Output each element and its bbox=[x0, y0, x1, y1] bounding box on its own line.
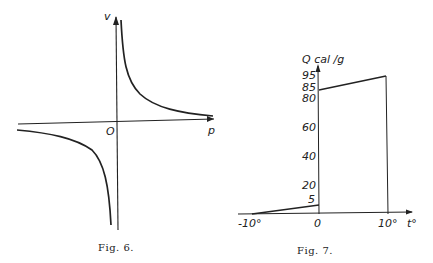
fig6-origin-label: O bbox=[106, 125, 115, 138]
fig7-segment-ice bbox=[252, 205, 319, 214]
fig7-ytick-40: 40 bbox=[302, 150, 316, 163]
fig6-v-arrow-icon bbox=[113, 16, 119, 25]
fig7: 95 85 80 60 40 20 5 Q cal /g -10° 0 10° … bbox=[238, 53, 417, 256]
fig6-p-arrow-icon bbox=[207, 116, 214, 122]
fig7-xtick-10: 10° bbox=[378, 217, 398, 230]
fig6: v O p Fig. 6. bbox=[17, 10, 215, 253]
fig6-branch-negative bbox=[17, 130, 111, 225]
fig6-v-axis bbox=[116, 17, 118, 230]
fig7-ytick-20: 20 bbox=[302, 179, 316, 192]
fig7-y-label: Q cal /g bbox=[302, 53, 344, 66]
fig7-segment-water bbox=[319, 76, 386, 90]
fig7-right-drop bbox=[386, 76, 388, 214]
fig6-y-label: v bbox=[104, 10, 111, 23]
fig7-ytick-60: 60 bbox=[302, 121, 316, 134]
fig7-xtick-0: 0 bbox=[314, 217, 321, 230]
fig6-x-label: p bbox=[207, 124, 215, 137]
fig6-caption: Fig. 6. bbox=[98, 242, 134, 253]
fig7-ytick-80: 80 bbox=[302, 92, 316, 105]
fig6-p-axis bbox=[18, 119, 214, 124]
fig7-caption: Fig. 7. bbox=[297, 245, 333, 256]
fig7-xtick-neg10: -10° bbox=[238, 217, 261, 230]
fig7-x-label: t° bbox=[407, 217, 417, 230]
fig7-ytick-5: 5 bbox=[308, 193, 315, 206]
fig7-t-arrow-icon bbox=[406, 210, 413, 215]
figures-canvas: v O p Fig. 6. 95 85 80 60 40 20 5 Q cal … bbox=[0, 0, 433, 263]
fig7-q-axis bbox=[318, 66, 319, 214]
fig6-branch-positive bbox=[121, 20, 213, 116]
